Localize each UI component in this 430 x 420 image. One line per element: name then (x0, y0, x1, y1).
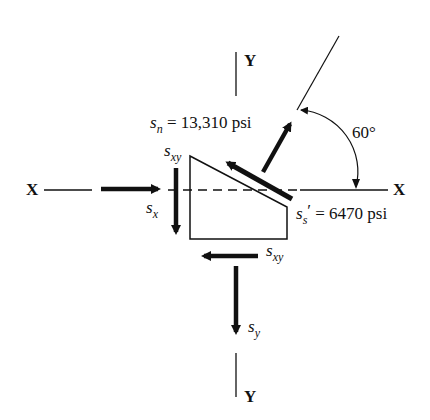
normal-direction-line (297, 36, 339, 110)
shear-inclined-label: ss′ = 6470 psi (296, 205, 387, 222)
angle-label: 60° (352, 124, 376, 141)
x-axis-label-left: X (26, 181, 38, 198)
sx-subscript: x (153, 207, 158, 221)
sxy-bottom-subscript: xy (273, 250, 284, 264)
sxy-left-label: sxy (164, 142, 181, 159)
sy-subscript: y (255, 326, 260, 340)
normal-stress-label: sn = 13,310 psi (150, 114, 252, 131)
y-axis-label-bottom: Y (244, 388, 256, 405)
angle-arc (301, 110, 358, 187)
stress-diagram: Y Y X X 60° sn = 13,310 psi ss′ = 6470 p… (0, 0, 430, 420)
normal-stress-subscript: n (157, 122, 163, 136)
shear-value: 6470 psi (329, 204, 387, 223)
sx-label: sx (146, 199, 158, 216)
angle-arc-lower-head (352, 179, 360, 189)
sy-symbol: s (248, 317, 255, 336)
sxy-left-symbol: s (164, 141, 171, 160)
normal-stress-arrow (263, 124, 290, 172)
sx-symbol: s (146, 198, 153, 217)
y-axis-label-top: Y (244, 52, 256, 69)
sy-label: sy (248, 318, 260, 335)
normal-stress-equals: = (167, 113, 177, 132)
shear-equals: = (315, 204, 325, 223)
sxy-bottom-symbol: s (266, 241, 273, 260)
shear-symbol: s (296, 204, 303, 223)
normal-stress-symbol: s (150, 113, 157, 132)
sxy-bottom-label: sxy (266, 242, 283, 259)
sxy-left-subscript: xy (171, 150, 182, 164)
shear-prime: ′ (307, 201, 311, 220)
normal-stress-value: 13,310 psi (181, 113, 252, 132)
x-axis-label-right: X (393, 181, 405, 198)
